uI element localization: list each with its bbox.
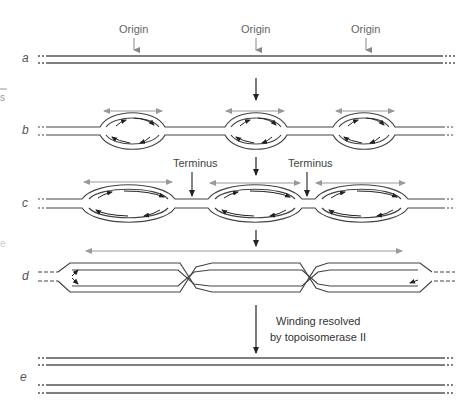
origin-label-3: Origin	[351, 23, 380, 35]
row-a-parental-duplex	[38, 56, 455, 63]
row-e-separated-daughters	[38, 358, 455, 393]
row-c-bubbles	[38, 185, 455, 223]
row-label-a: a	[22, 51, 29, 65]
resolution-note-line1: Winding resolved	[270, 313, 366, 329]
resolution-note-line2: by topoisomerase II	[270, 329, 366, 345]
row-label-c: c	[22, 196, 28, 210]
row-d-intertwined-daughters	[38, 263, 455, 292]
row-d-fork-arrows	[72, 270, 418, 284]
row-c-extent-arrows	[84, 182, 405, 183]
row-label-e: e	[20, 370, 27, 384]
row-c-fork-arrows	[96, 191, 397, 216]
left-edge-fragment-s: s	[0, 92, 5, 103]
left-edge-fragment-e: e	[0, 238, 6, 249]
replication-diagram	[0, 0, 468, 414]
terminus-label-2: Terminus	[288, 157, 333, 169]
row-b-bubbles	[38, 113, 455, 150]
terminus-label-1: Terminus	[173, 157, 218, 169]
origin-label-2: Origin	[241, 23, 270, 35]
row-label-b: b	[22, 123, 29, 137]
terminus-arrows	[192, 172, 307, 196]
row-label-d: d	[22, 269, 29, 283]
resolution-note: Winding resolved by topoisomerase II	[270, 313, 366, 345]
origin-arrows	[134, 38, 366, 50]
origin-label-1: Origin	[119, 23, 148, 35]
